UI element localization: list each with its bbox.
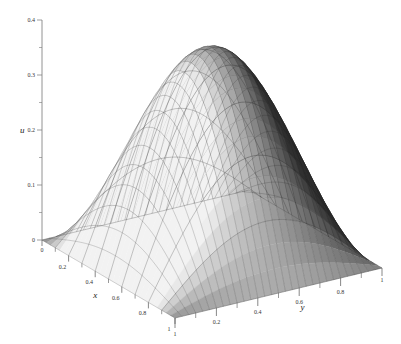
- u-tick-label: 0.2: [28, 127, 36, 133]
- x-tick-label: 1: [168, 326, 171, 332]
- surface-plot-canvas: 00.10.20.30.4u00.20.40.60.81x0.20.40.60.…: [0, 0, 401, 344]
- y-tick-label: 0.2: [213, 319, 221, 325]
- surface-plot: 00.10.20.30.4u00.20.40.60.81x0.20.40.60.…: [0, 0, 401, 344]
- x-tick-label: 0.6: [112, 295, 120, 301]
- u-tick-label: 0.1: [28, 182, 36, 188]
- u-axis-label: u: [20, 125, 25, 135]
- u-tick-label: 0.3: [28, 72, 36, 78]
- x-tick-label: 0.8: [139, 310, 147, 316]
- x-tick-label: 0.2: [59, 264, 67, 270]
- y-tick-label: 0.4: [254, 309, 262, 315]
- u-tick-label: 0.4: [28, 17, 36, 23]
- y-tick-label: 0.8: [337, 289, 345, 295]
- y-axis-label: y: [300, 302, 305, 312]
- x-axis-label: x: [92, 290, 97, 300]
- u-tick-label: 0: [32, 237, 35, 243]
- corner-tick-label: 1: [174, 331, 177, 337]
- y-tick-label: 1: [381, 277, 384, 283]
- x-tick-label: 0.4: [85, 279, 93, 285]
- x-tick-label: 0: [41, 247, 44, 253]
